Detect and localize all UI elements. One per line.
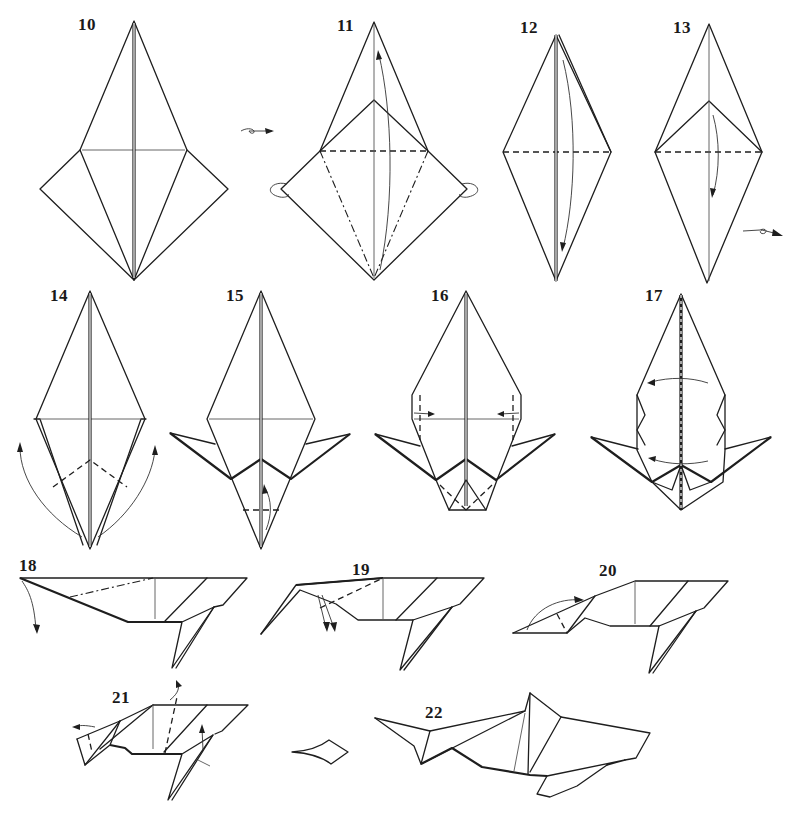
step-17-figure <box>591 294 771 510</box>
step-20-figure <box>513 581 728 673</box>
step-22-figure <box>375 693 650 797</box>
step-14-figure <box>17 291 158 549</box>
step-15-figure <box>170 291 350 549</box>
origami-diagram: 10 11 12 13 14 15 16 17 18 19 20 21 22 <box>0 0 797 814</box>
step-19-figure <box>261 578 484 670</box>
turn-over-icon <box>241 128 274 134</box>
step-18-figure <box>20 578 247 668</box>
step-12-figure <box>503 35 611 281</box>
turn-over-icon <box>743 229 783 236</box>
step-10-figure <box>40 21 228 280</box>
step-16-figure <box>375 291 555 510</box>
step-13-figure <box>655 24 762 283</box>
step-11-figure <box>270 22 477 280</box>
step-21-figure <box>72 680 248 800</box>
result-arrow-icon <box>292 740 348 764</box>
